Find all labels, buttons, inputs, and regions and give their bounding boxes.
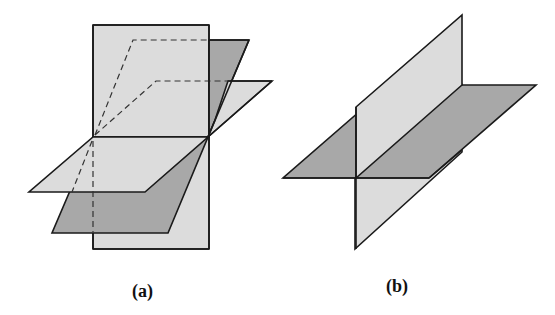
caption-b: (b) [386, 276, 408, 297]
caption-a: (a) [132, 281, 153, 302]
panel-b-diagram [283, 15, 536, 249]
panel-a-diagram [29, 25, 272, 249]
planes-figure [0, 0, 555, 315]
